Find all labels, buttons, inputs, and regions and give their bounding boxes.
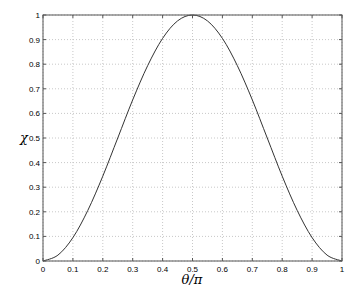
x-tick-label: 0.3 xyxy=(127,265,139,274)
y-tick-label: 0 xyxy=(36,257,41,266)
x-tick-label: 0.9 xyxy=(307,265,319,274)
y-tick-labels: 00.10.20.30.40.50.60.70.80.91 xyxy=(29,11,41,266)
y-tick-label: 0.7 xyxy=(29,85,41,94)
x-tick-label: 0 xyxy=(41,265,46,274)
y-axis-label: χ xyxy=(19,130,29,145)
x-tick-label: 0.6 xyxy=(217,265,229,274)
y-tick-label: 1 xyxy=(36,11,41,20)
x-tick-label: 0.1 xyxy=(67,265,79,274)
x-tick-label: 1 xyxy=(340,265,345,274)
y-tick-label: 0.2 xyxy=(29,208,41,217)
x-axis-label: θ/π xyxy=(182,272,203,287)
y-tick-label: 0.8 xyxy=(29,60,41,69)
grid-lines xyxy=(43,15,342,261)
y-tick-label: 0.1 xyxy=(29,232,41,241)
y-tick-label: 0.5 xyxy=(29,134,41,143)
x-tick-label: 0.2 xyxy=(97,265,109,274)
x-tick-label: 0.7 xyxy=(247,265,259,274)
y-tick-label: 0.4 xyxy=(29,159,41,168)
y-tick-label: 0.9 xyxy=(29,36,41,45)
x-tick-label: 0.8 xyxy=(277,265,289,274)
y-tick-label: 0.3 xyxy=(29,183,41,192)
y-tick-label: 0.6 xyxy=(29,109,41,118)
chart: 00.10.20.30.40.50.60.70.80.91 00.10.20.3… xyxy=(0,0,360,299)
x-tick-label: 0.4 xyxy=(157,265,169,274)
